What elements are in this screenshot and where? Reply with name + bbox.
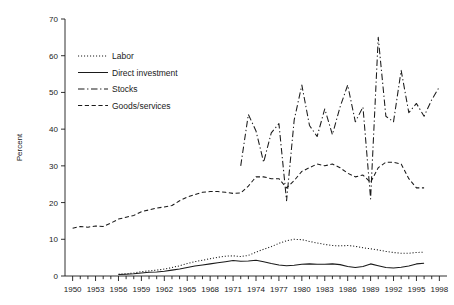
x-tick-label: 1995 (408, 285, 426, 294)
x-tick-label: 1962 (155, 285, 173, 294)
x-tick-label: 1983 (316, 285, 334, 294)
series-line-stocks (241, 37, 440, 200)
y-tick-label: 40 (49, 125, 58, 134)
series-line-labor (118, 239, 424, 274)
x-tick-label: 1968 (201, 285, 219, 294)
x-tick-label: 1989 (362, 285, 380, 294)
chart-container: 010203040506070 195019531956195919621965… (0, 0, 454, 305)
series-line-direct-investment (118, 260, 424, 274)
x-tick-label: 1974 (247, 285, 265, 294)
x-tick-label: 1971 (224, 285, 242, 294)
y-tick-label: 50 (49, 88, 58, 97)
line-chart: 010203040506070 195019531956195919621965… (0, 0, 454, 305)
y-tick-label: 0 (54, 272, 59, 281)
x-tick-label: 1959 (133, 285, 151, 294)
x-tick-label: 1986 (339, 285, 357, 294)
x-tick-label: 1977 (270, 285, 288, 294)
legend-label-direct-investment: Direct investment (112, 68, 178, 78)
y-tick-label: 30 (49, 162, 58, 171)
x-axis: 1950195319561959196219651968197119741977… (64, 276, 449, 294)
x-tick-label: 1950 (64, 285, 82, 294)
legend-label-goods-services: Goods/services (112, 101, 171, 111)
y-tick-label: 10 (49, 235, 58, 244)
y-tick-label: 60 (49, 52, 58, 61)
x-tick-label: 1980 (293, 285, 311, 294)
x-tick-label: 1992 (385, 285, 403, 294)
x-tick-label: 1953 (87, 285, 105, 294)
y-tick-label: 20 (49, 199, 58, 208)
x-tick-label: 1965 (178, 285, 196, 294)
legend-label-labor: Labor (112, 51, 134, 61)
x-tick-label: 1956 (110, 285, 128, 294)
y-axis-title: Percent (15, 133, 24, 161)
legend-label-stocks: Stocks (112, 84, 138, 94)
y-axis: 010203040506070 (49, 15, 65, 281)
chart-legend: LaborDirect investmentStocksGoods/servic… (78, 51, 178, 110)
series-line-goods-services (73, 162, 424, 228)
x-tick-label: 1998 (430, 285, 448, 294)
y-tick-label: 70 (49, 15, 58, 24)
